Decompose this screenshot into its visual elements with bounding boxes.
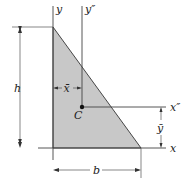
base-label: b: [93, 164, 100, 177]
y-axis-label: y: [55, 3, 63, 16]
ybar-label: ȳ: [156, 122, 164, 135]
centroid-diagram: y y″ x x″ C h b x̄ ȳ: [0, 0, 192, 191]
y-double-prime-label: y″: [84, 3, 96, 16]
height-label: h: [14, 82, 21, 95]
x-axis-label: x: [170, 142, 177, 155]
xbar-label: x̄: [64, 82, 71, 95]
x-double-prime-label: x″: [170, 101, 181, 114]
b-arrow-left: [53, 168, 59, 172]
h-arrow-bottom: [18, 142, 22, 148]
ybar-arrow-top: [160, 107, 163, 112]
centroid-label: C: [74, 109, 83, 122]
b-arrow-right: [135, 168, 141, 172]
h-arrow-top: [18, 27, 22, 33]
ybar-arrow-bottom: [160, 143, 163, 148]
